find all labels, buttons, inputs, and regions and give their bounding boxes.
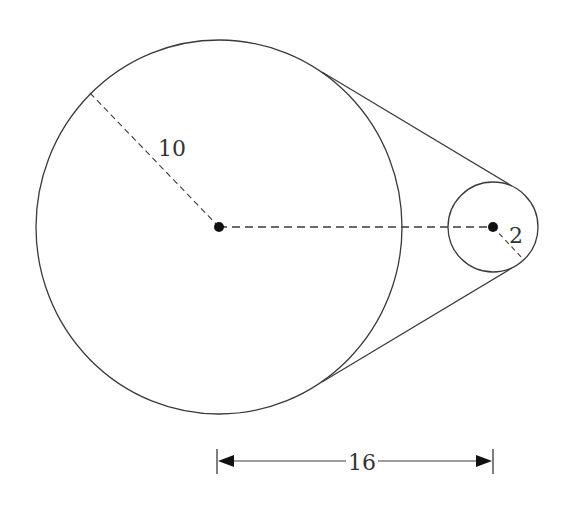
large-center-point [214,222,224,232]
belt-pulley-diagram: 10 2 16 [0,0,566,505]
center-distance-label: 16 [348,450,376,475]
arrowhead-right-icon [476,455,492,467]
large-radius-label: 10 [158,136,186,161]
small-radius-label: 2 [509,223,523,248]
arrowhead-left-icon [218,455,234,467]
upper-tangent-line [322,72,512,186]
lower-tangent-line [322,268,512,382]
large-radius-line [90,93,219,227]
small-center-point [488,222,498,232]
